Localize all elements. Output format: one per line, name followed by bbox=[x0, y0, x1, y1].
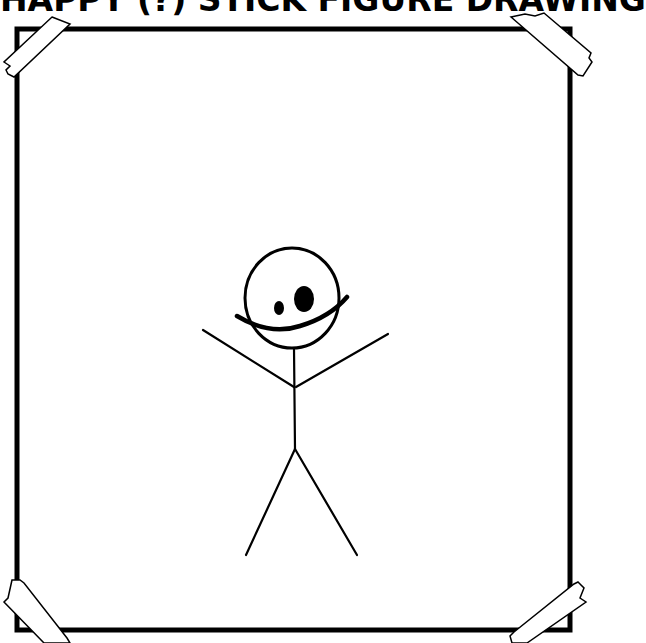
left-leg bbox=[246, 449, 295, 555]
head bbox=[245, 248, 339, 348]
left-eye bbox=[274, 301, 284, 315]
stick-figure bbox=[203, 248, 388, 555]
tape-top-left-icon bbox=[4, 17, 70, 77]
tape-top-right-icon bbox=[511, 13, 592, 76]
left-arm bbox=[203, 330, 294, 387]
right-eye bbox=[294, 286, 314, 312]
tape-bottom-right-icon bbox=[510, 582, 586, 643]
right-leg bbox=[295, 449, 357, 555]
right-arm bbox=[296, 334, 388, 387]
tape-bottom-left-icon bbox=[4, 580, 70, 643]
body bbox=[294, 348, 295, 449]
